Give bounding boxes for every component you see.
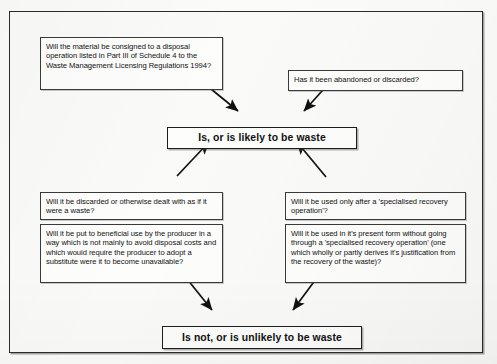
question-box-specialised-recovery-only: Will it be used only after a 'specialise… [285,192,466,220]
question-box-disposal-operation: Will the material be consigned to a disp… [40,37,223,90]
question-box-present-form-without-recovery: Will it be used in it's present form wit… [285,224,466,283]
conclusion-box-is-waste: Is, or is likely to be waste [167,127,357,149]
diagram-frame: Will the material be consigned to a disp… [9,11,483,353]
flowchart-page: Will the material be consigned to a disp… [0,0,497,364]
question-box-discarded-or-dealt-with: Will it be discarded or otherwise dealt … [40,192,223,220]
conclusion-box-is-not-waste: Is not, or is unlikely to be waste [162,326,362,349]
question-box-abandoned-or-discarded: Has it been abandoned or discarded? [288,70,463,91]
question-box-beneficial-use: Will it be put to beneficial use by the … [40,224,223,283]
